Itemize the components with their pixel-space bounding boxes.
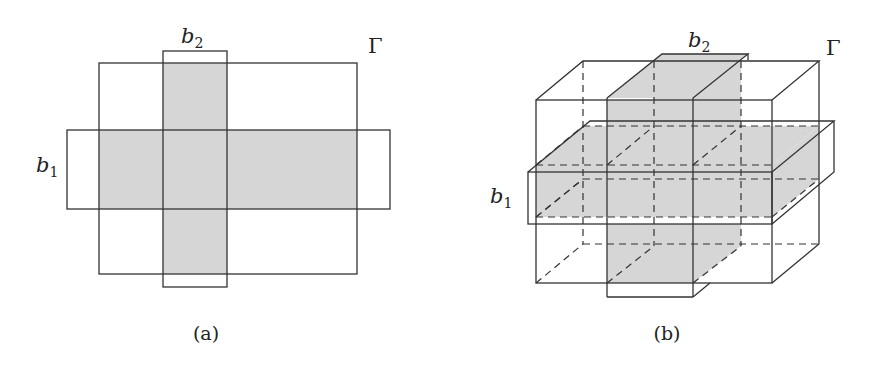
label-gamma-b: Γ [826, 36, 841, 60]
figure-canvas: b2 Γ b1 (a) [0, 0, 873, 375]
panel-b: b2 Γ b1 (b) [490, 28, 841, 344]
label-b2-b: b2 [688, 28, 710, 55]
label-b2-a: b2 [181, 24, 203, 51]
shaded-b2-gamma [163, 63, 227, 274]
shaded-b1-gamma [99, 130, 357, 209]
caption-a: (a) [193, 322, 219, 344]
panel-a: b2 Γ b1 (a) [36, 24, 390, 344]
label-gamma-a: Γ [368, 34, 383, 58]
b2-bottom-diagonal [693, 283, 710, 297]
gamma-hidden-diagonal [536, 244, 583, 283]
label-b1-a: b1 [36, 153, 58, 180]
caption-b: (b) [654, 322, 681, 344]
shaded-b1-top [536, 126, 819, 165]
label-b1-b: b1 [490, 184, 512, 211]
